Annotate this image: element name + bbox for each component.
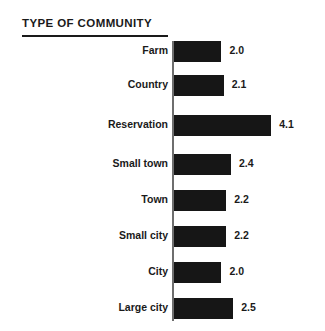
bar-value-label: 2.2 — [234, 193, 249, 205]
bar-value-label: 2.0 — [229, 44, 244, 56]
bar-rect — [174, 190, 226, 211]
bar-chart-plot-area: Farm 2.0 Country 2.1 Reservation 4.1 Sma… — [0, 41, 325, 326]
chart-title: TYPE OF COMMUNITY — [22, 17, 152, 29]
bar-row: Small city 2.2 — [0, 226, 325, 247]
bar-rect — [174, 262, 221, 283]
bar-row: Farm 2.0 — [0, 41, 325, 62]
bar-value-label: 4.1 — [279, 118, 294, 130]
bar-value-label: 2.5 — [241, 301, 256, 313]
bar-row: Country 2.1 — [0, 75, 325, 96]
bar-rect — [174, 75, 224, 96]
bar-category-label: Country — [128, 78, 168, 90]
bar-rect — [174, 115, 271, 136]
bar-category-label: Small town — [113, 157, 168, 169]
bar-category-label: City — [148, 265, 168, 277]
bar-category-label: Large city — [118, 301, 168, 313]
chart-container: TYPE OF COMMUNITY Farm 2.0 Country 2.1 R… — [0, 0, 325, 331]
bar-row: Large city 2.5 — [0, 298, 325, 319]
bar-row: Small town 2.4 — [0, 154, 325, 175]
bar-value-label: 2.2 — [234, 229, 249, 241]
bar-category-label: Farm — [142, 44, 168, 56]
title-underline-rule — [22, 35, 168, 37]
bar-category-label: Reservation — [108, 118, 168, 130]
bar-row: City 2.0 — [0, 262, 325, 283]
bar-rect — [174, 41, 221, 62]
bar-value-label: 2.4 — [239, 157, 254, 169]
bar-rect — [174, 154, 231, 175]
bar-row: Town 2.2 — [0, 190, 325, 211]
bar-category-label: Small city — [119, 229, 168, 241]
bar-category-label: Town — [141, 193, 168, 205]
bar-value-label: 2.1 — [232, 78, 247, 90]
bar-value-label: 2.0 — [229, 265, 244, 277]
bar-row: Reservation 4.1 — [0, 115, 325, 136]
bar-rect — [174, 298, 233, 319]
bar-rect — [174, 226, 226, 247]
